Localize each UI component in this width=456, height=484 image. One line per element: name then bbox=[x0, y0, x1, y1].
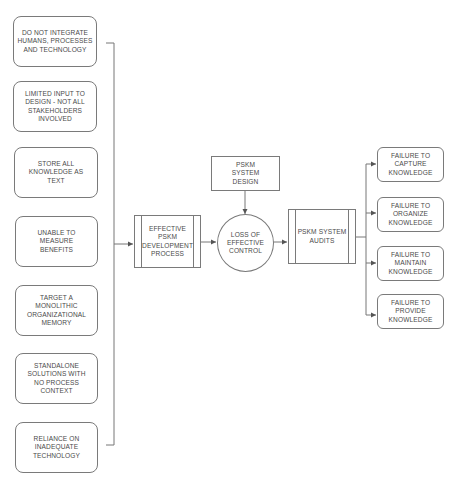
cause-box-store-text: STORE ALL KNOWLEDGE AS TEXT bbox=[14, 147, 98, 198]
development-process-box: EFFECTIVE PSKM DEVELOPMENT PROCESS bbox=[134, 215, 201, 268]
system-design-box: PSKM SYSTEM DESIGN bbox=[211, 156, 280, 191]
cause-label: STANDALONE SOLUTIONS WITH NO PROCESS CON… bbox=[19, 362, 94, 395]
failure-label: FAILURE TO PROVIDE KNOWLEDGE bbox=[381, 299, 440, 324]
development-process-label: EFFECTIVE PSKM DEVELOPMENT PROCESS bbox=[137, 225, 198, 258]
cause-label: STORE ALL KNOWLEDGE AS TEXT bbox=[18, 160, 94, 185]
cause-box-inadequate-tech: RELIANCE ON INADEQUATE TECHNOLOGY bbox=[15, 422, 98, 473]
cause-label: UNABLE TO MEASURE BENEFITS bbox=[19, 229, 94, 254]
causes-bracket bbox=[106, 43, 114, 445]
cause-box-limited-input: LIMITED INPUT TO DESIGN - NOT ALL STAKEH… bbox=[13, 81, 97, 132]
loss-of-control-label: LOSS OF EFFECTIVE CONTROL bbox=[221, 231, 270, 256]
failure-label: FAILURE TO MAINTAIN KNOWLEDGE bbox=[381, 251, 440, 276]
failure-box-capture: FAILURE TO CAPTURE KNOWLEDGE bbox=[377, 147, 444, 182]
cause-label: DO NOT INTEGRATE HUMANS, PROCESSES AND T… bbox=[17, 29, 93, 54]
failure-label: FAILURE TO ORGANIZE KNOWLEDGE bbox=[381, 202, 440, 227]
cause-box-monolithic-memory: TARGET A MONOLITHIC ORGANIZATIONAL MEMOR… bbox=[15, 285, 98, 336]
cause-box-standalone: STANDALONE SOLUTIONS WITH NO PROCESS CON… bbox=[15, 353, 98, 404]
system-design-label: PSKM SYSTEM DESIGN bbox=[215, 161, 276, 186]
failure-box-provide: FAILURE TO PROVIDE KNOWLEDGE bbox=[377, 294, 444, 329]
cause-box-integrate: DO NOT INTEGRATE HUMANS, PROCESSES AND T… bbox=[13, 16, 97, 67]
cause-box-measure-benefits: UNABLE TO MEASURE BENEFITS bbox=[15, 216, 98, 267]
cause-label: TARGET A MONOLITHIC ORGANIZATIONAL MEMOR… bbox=[19, 294, 94, 327]
failure-box-maintain: FAILURE TO MAINTAIN KNOWLEDGE bbox=[377, 246, 444, 281]
cause-label: LIMITED INPUT TO DESIGN - NOT ALL STAKEH… bbox=[17, 90, 93, 123]
failure-label: FAILURE TO CAPTURE KNOWLEDGE bbox=[381, 152, 440, 177]
loss-of-control-circle: LOSS OF EFFECTIVE CONTROL bbox=[217, 214, 274, 272]
cause-label: RELIANCE ON INADEQUATE TECHNOLOGY bbox=[19, 435, 94, 460]
failure-box-organize: FAILURE TO ORGANIZE KNOWLEDGE bbox=[377, 197, 444, 232]
system-audits-box: PSKM SYSTEM AUDITS bbox=[288, 209, 356, 264]
system-audits-label: PSKM SYSTEM AUDITS bbox=[292, 228, 352, 245]
